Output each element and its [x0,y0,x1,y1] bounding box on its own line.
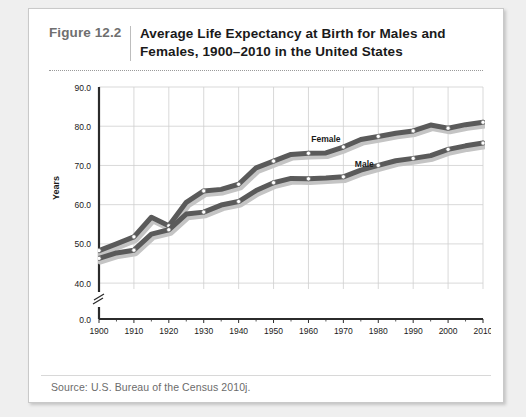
x-axis-tick-label: 2010 [474,326,491,336]
data-point-marker [271,181,275,185]
x-axis-tick-label: 1970 [334,326,353,336]
x-axis-tick-label: 1980 [369,326,388,336]
line-chart: 40.050.060.070.080.090.00.01900191019201… [43,77,491,355]
x-axis-tick-label: 1940 [229,326,248,336]
x-axis-tick-label: 2000 [439,326,458,336]
y-axis-title: Years [51,176,61,200]
data-point-marker [481,120,485,124]
figure-title-separator [130,26,131,61]
figure-header: Figure 12.2 Average Life Expectancy at B… [29,9,503,61]
x-axis-tick-label: 1990 [404,326,423,336]
data-point-marker [481,141,485,145]
data-point-marker [376,134,380,138]
series-annotation-label: Male [355,159,374,169]
data-point-marker [132,248,136,252]
data-point-marker [97,248,101,252]
x-axis-tick-label: 1950 [264,326,283,336]
data-point-marker [341,175,345,179]
data-point-marker [411,129,415,133]
x-axis-tick-label: 1920 [159,326,178,336]
chart-container: 40.050.060.070.080.090.00.01900191019201… [43,77,489,357]
data-point-marker [97,256,101,260]
header-dotted-divider [49,70,483,71]
y-axis-tick-label: 90.0 [74,83,91,93]
data-point-marker [202,210,206,214]
data-point-marker [446,126,450,130]
data-point-marker [341,145,345,149]
data-point-marker [132,235,136,239]
x-axis-tick-label: 1930 [194,326,213,336]
series-annotation-label: Female [311,134,341,144]
data-point-marker [237,182,241,186]
source-divider [41,375,491,376]
y-axis-tick-label: 60.0 [74,200,91,210]
y-axis-tick-label: 70.0 [74,161,91,171]
figure-card: Figure 12.2 Average Life Expectancy at B… [28,8,504,403]
y-axis-tick-label: 80.0 [74,122,91,132]
plot-background [99,87,483,289]
data-point-marker [237,199,241,203]
data-point-marker [446,147,450,151]
data-point-marker [167,228,171,232]
y-axis-tick-label: 40.0 [74,279,91,289]
data-point-marker [411,156,415,160]
figure-number: Figure 12.2 [49,25,121,40]
y-axis-tick-label: 0.0 [79,315,91,325]
x-axis-tick-label: 1900 [90,326,109,336]
data-point-marker [202,189,206,193]
x-axis-tick-label: 1910 [124,326,143,336]
figure-title: Average Life Expectancy at Birth for Mal… [140,25,483,61]
y-axis-tick-label: 50.0 [74,239,91,249]
x-axis-tick-label: 1960 [299,326,318,336]
data-point-marker [306,151,310,155]
data-point-marker [376,163,380,167]
data-point-marker [271,159,275,163]
source-note: Source: U.S. Bureau of the Census 2010j. [29,381,503,402]
data-point-marker [306,177,310,181]
